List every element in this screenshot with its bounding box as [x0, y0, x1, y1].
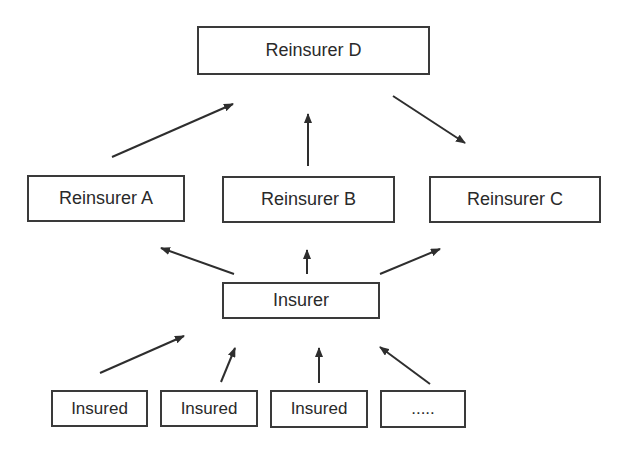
- reinsurer-d-label: Reinsurer D: [265, 40, 361, 61]
- reinsurer-b-label: Reinsurer B: [261, 189, 356, 210]
- insured-label-2: Insured: [181, 399, 238, 419]
- arrow-insurer-to-reinsurer-a: [161, 248, 234, 274]
- reinsurer-d-box: Reinsurer D: [197, 26, 430, 75]
- more-insured-label: .....: [411, 399, 435, 419]
- insured-label-3: Insured: [291, 399, 348, 419]
- arrow-reinsurer-d-to-reinsurer-c: [393, 96, 465, 143]
- insured-box-2: Insured: [160, 390, 258, 427]
- arrow-reinsurer-a-to-reinsurer-d: [112, 104, 233, 157]
- arrow-insured-2-to-insurer: [221, 348, 235, 382]
- reinsurer-c-label: Reinsurer C: [467, 189, 563, 210]
- arrow-insurer-to-reinsurer-c: [380, 249, 440, 274]
- insurer-box: Insurer: [222, 282, 380, 319]
- insurer-label: Insurer: [273, 290, 329, 311]
- arrow-insured-1-to-insurer: [100, 336, 184, 373]
- reinsurer-a-label: Reinsurer A: [59, 188, 153, 209]
- reinsurer-a-box: Reinsurer A: [27, 175, 185, 222]
- reinsurer-c-box: Reinsurer C: [429, 176, 601, 223]
- insured-label-1: Insured: [71, 399, 128, 419]
- reinsurer-b-box: Reinsurer B: [222, 176, 395, 223]
- insured-box-3: Insured: [270, 390, 368, 428]
- arrow-insured-more-to-insurer: [380, 347, 430, 384]
- more-insured-box: .....: [380, 390, 466, 428]
- insured-box-1: Insured: [51, 390, 148, 427]
